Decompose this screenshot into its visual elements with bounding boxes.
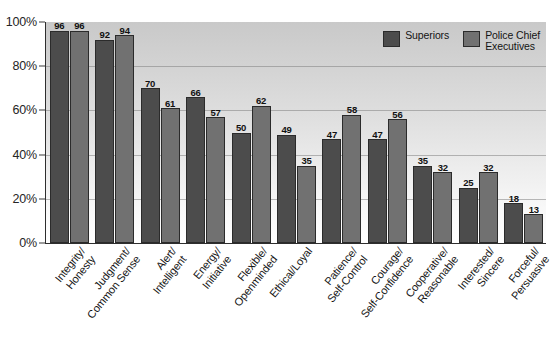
bar-value-label: 47 [327,130,337,140]
bar-value-label: 56 [392,110,402,120]
bar-chart: 0%20%40%60%80%100% 969692947061665750624… [0,0,558,355]
legend-item-superiors: Superiors [383,30,449,47]
bars-layer: 9696929470616657506249354758475635322532… [46,22,546,243]
bar-group: 7061 [141,22,181,243]
y-tick-label: 80% [0,60,37,73]
bar: 35 [297,166,316,243]
bar-group: 2532 [459,22,499,243]
bar: 18 [504,203,523,243]
y-tick-label: 100% [0,16,37,29]
x-axis-labels: Integrity/ HonestyJudgment/ Common Sense… [45,245,545,355]
bar: 57 [206,117,225,243]
bar: 25 [459,188,478,243]
y-tick-label: 20% [0,193,37,206]
bar-value-label: 18 [509,194,519,204]
bar-value-label: 13 [529,205,539,215]
legend-label-superiors: Superiors [405,30,449,41]
legend-item-police-chief-executives: Police Chief Executives [463,30,540,53]
y-tick-label: 40% [0,148,37,161]
bar-value-label: 32 [483,163,493,173]
legend-label-police-chief-executives: Police Chief Executives [485,30,540,53]
bar-value-label: 32 [438,163,448,173]
bar: 49 [277,135,296,243]
bar-value-label: 61 [165,99,175,109]
bar-group: 5062 [232,22,272,243]
legend-swatch-superiors [383,31,400,47]
bar: 58 [342,115,361,243]
bar-group: 9696 [50,22,90,243]
bar: 66 [186,97,205,243]
bar: 56 [388,119,407,243]
bar-value-label: 58 [347,105,357,115]
bar: 35 [413,166,432,243]
bar-value-label: 96 [54,21,64,31]
bar-group: 3532 [413,22,453,243]
bar-group: 4756 [368,22,408,243]
bar-value-label: 70 [145,79,155,89]
bar: 70 [141,88,160,243]
bar: 50 [232,133,251,244]
bar: 94 [115,35,134,243]
bar: 47 [322,139,341,243]
bar: 92 [95,40,114,243]
legend-swatch-police-chief-executives [463,31,480,47]
bar-value-label: 47 [372,130,382,140]
plot-area: 9696929470616657506249354758475635322532… [45,22,546,244]
bar: 96 [50,31,69,243]
y-axis: 0%20%40%60%80%100% [0,22,45,243]
y-tick-label: 0% [0,237,37,250]
bar: 13 [524,214,543,243]
bar: 96 [70,31,89,243]
bar-value-label: 66 [190,88,200,98]
bar: 32 [433,172,452,243]
bar-value-label: 35 [301,156,311,166]
bar: 61 [161,108,180,243]
bar-group: 4935 [277,22,317,243]
bar: 62 [252,106,271,243]
bar-value-label: 92 [100,30,110,40]
bar-value-label: 62 [256,96,266,106]
bar-value-label: 25 [463,178,473,188]
chart-legend: Superiors Police Chief Executives [383,30,540,53]
bar-group: 6657 [186,22,226,243]
bar: 32 [479,172,498,243]
bar-value-label: 49 [281,125,291,135]
bar: 47 [368,139,387,243]
bar-group: 4758 [322,22,362,243]
bar-value-label: 96 [74,21,84,31]
bar-value-label: 35 [418,156,428,166]
bar-group: 9294 [95,22,135,243]
bar-value-label: 94 [120,26,130,36]
bar-value-label: 57 [210,108,220,118]
bar-value-label: 50 [236,123,246,133]
bar-group: 1813 [504,22,544,243]
y-tick-label: 60% [0,104,37,117]
